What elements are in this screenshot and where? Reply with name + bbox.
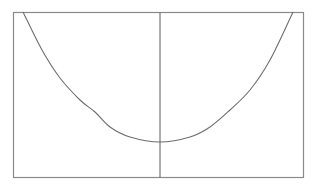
plot-canvas bbox=[0, 0, 313, 189]
curve-line bbox=[23, 12, 293, 142]
plot-frame bbox=[14, 13, 304, 178]
